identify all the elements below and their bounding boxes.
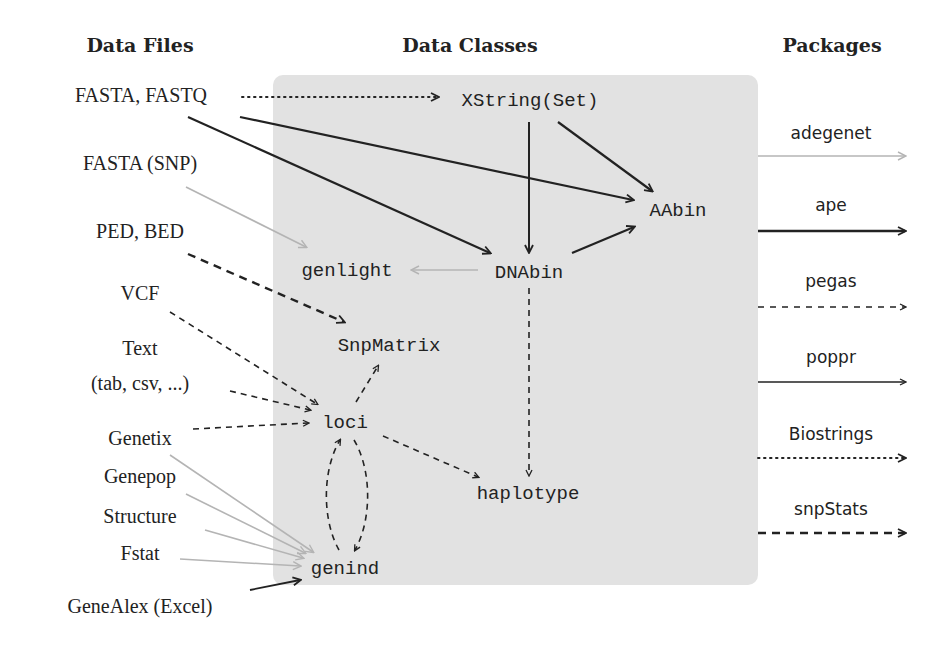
file-ped-bed: PED, BED [96, 220, 184, 242]
file-structure: Structure [103, 505, 176, 527]
legend-pegas: pegas [758, 271, 905, 307]
legend-adegenet: adegenet [758, 123, 905, 156]
file-genepop: Genepop [104, 465, 176, 488]
legend-label-biostrings: Biostrings [789, 424, 874, 444]
file-genetix: Genetix [108, 427, 171, 449]
class-genind: genind [311, 558, 379, 580]
legend-label-snpstats: snpStats [794, 499, 868, 519]
file-text: Text [122, 337, 158, 359]
legend-ape: ape [758, 195, 905, 231]
data-classes-panel [273, 75, 758, 585]
file-vcf: VCF [121, 282, 160, 304]
package-data-flow-diagram: Data Files Data Classes Packages FASTA, … [0, 0, 940, 658]
legend-snpstats: snpStats [758, 499, 905, 533]
legend-label-ape: ape [815, 195, 847, 215]
header-packages: Packages [782, 34, 881, 56]
legend-poppr: poppr [758, 347, 905, 382]
file-fasta-fastq: FASTA, FASTQ [75, 84, 208, 106]
class-genlight: genlight [301, 260, 392, 282]
legend-label-pegas: pegas [805, 271, 856, 291]
class-haplotype: haplotype [477, 483, 580, 505]
header-data-files: Data Files [86, 34, 193, 56]
header-data-classes: Data Classes [402, 34, 537, 56]
legend-label-adegenet: adegenet [791, 123, 872, 143]
file-fasta-snp: FASTA (SNP) [83, 152, 197, 175]
file-text-formats: (tab, csv, ...) [91, 372, 189, 395]
class-loci: loci [322, 412, 368, 434]
class-aabin: AAbin [649, 200, 706, 222]
class-snpmatrix: SnpMatrix [338, 335, 441, 357]
class-xstring: XString(Set) [462, 90, 599, 112]
class-dnabin: DNAbin [495, 262, 563, 284]
file-fstat: Fstat [121, 542, 160, 564]
file-genealex: GeneAlex (Excel) [68, 595, 213, 618]
legend-label-poppr: poppr [806, 347, 856, 367]
legend-biostrings: Biostrings [758, 424, 905, 458]
